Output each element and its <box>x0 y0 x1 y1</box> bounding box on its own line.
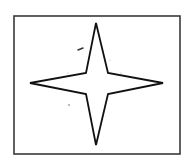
star-diagram-canvas <box>0 0 185 167</box>
stray-dot-mark <box>68 73 69 74</box>
stray-dot-mark <box>121 73 122 74</box>
stray-dot-mark <box>110 60 111 61</box>
stray-dot-mark <box>68 104 70 106</box>
